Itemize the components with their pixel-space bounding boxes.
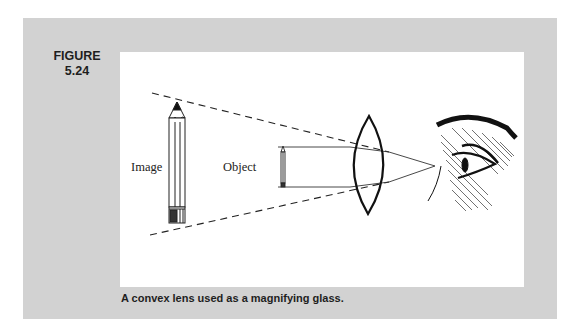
figure-label-number: 5.24 [38,64,116,79]
figure-number: FIGURE 5.24 [38,49,116,79]
figure-caption: A convex lens used as a magnifying glass… [121,292,344,304]
convex-lens [354,116,384,214]
figure-label-word: FIGURE [38,49,116,64]
object-label: Object [223,160,257,174]
light-rays [278,147,435,187]
virtual-image-pencil [169,102,185,223]
image-label: Image [131,160,163,174]
object-pencil [281,146,285,187]
eye-drawing [428,117,516,211]
figure-illustration: Image Object [120,52,524,287]
